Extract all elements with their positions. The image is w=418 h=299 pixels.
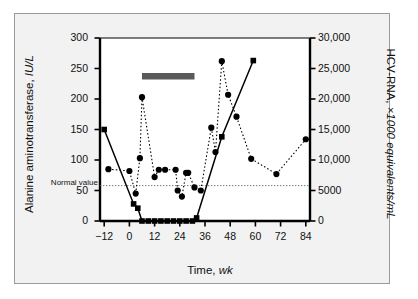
x-axis-title: Time, wk <box>140 264 280 276</box>
y-tick-label-right-25000: 25,000 <box>318 62 364 74</box>
y-tick-label-left-50: 50 <box>48 184 88 196</box>
y-tick-label-left-300: 300 <box>48 31 88 43</box>
y-axis-left-title-plain: Alanine aminotransferase, <box>23 79 35 213</box>
figure-panel <box>14 13 390 284</box>
x-tick-label-84: 84 <box>291 230 321 242</box>
y-axis-right-title: HCV-RNA, ×1000 equivalents/mL <box>385 39 397 229</box>
y-axis-left-title-units: IU/L <box>23 55 35 76</box>
y-tick-label-right-10000: 10,000 <box>318 153 364 165</box>
y-tick-label-left-100: 100 <box>48 153 88 165</box>
y-tick-label-left-150: 150 <box>48 123 88 135</box>
x-axis-title-plain: Time, <box>187 264 215 276</box>
y-tick-label-right-15000: 15,000 <box>318 123 364 135</box>
y-axis-left-title: Alanine aminotransferase, IU/L <box>23 39 35 229</box>
y-tick-label-right-20000: 20,000 <box>318 92 364 104</box>
y-tick-label-left-200: 200 <box>48 92 88 104</box>
interferon-treatment-label: Interferon treatment <box>116 61 199 72</box>
y-axis-right-title-plain: HCV-RNA, <box>385 49 397 104</box>
y-tick-label-right-0: 0 <box>318 214 364 226</box>
y-tick-label-right-30000: 30,000 <box>318 31 364 43</box>
y-tick-label-left-0: 0 <box>48 214 88 226</box>
x-axis-title-units: wk <box>219 264 233 276</box>
y-axis-right-title-units: ×1000 equivalents/mL <box>385 107 397 220</box>
y-tick-label-left-250: 250 <box>48 62 88 74</box>
y-tick-label-right-5000: 5000 <box>318 184 364 196</box>
figure-container: Alanine aminotransferase, IU/L HCV-RNA, … <box>0 0 418 299</box>
